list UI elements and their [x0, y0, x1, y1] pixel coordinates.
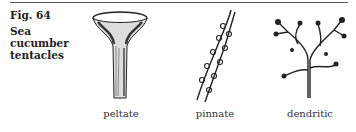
figure-caption: Sea cucumber tentacles: [10, 25, 90, 61]
figure-number: Fig. 64: [10, 9, 51, 21]
caption-line-2: tentacles: [10, 49, 90, 61]
label-dendritic: dendritic: [280, 108, 340, 119]
pinnate-tentacle-illustration-icon: [185, 8, 240, 103]
peltate-tentacle-illustration-icon: [90, 10, 150, 100]
dendritic-tentacle-illustration-icon: [268, 10, 348, 100]
label-pinnate: pinnate: [190, 108, 240, 119]
top-rule: [10, 2, 348, 3]
label-peltate: peltate: [96, 108, 146, 119]
caption-line-1: Sea cucumber: [10, 25, 90, 49]
